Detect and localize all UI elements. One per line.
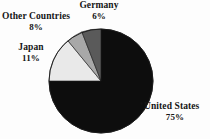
slice-label-germany: Germany 6% xyxy=(62,1,136,21)
slice-label-united-states-name: United States xyxy=(144,102,210,112)
slice-label-japan-percent: 11% xyxy=(3,54,59,63)
slice-label-united-states-percent: 75% xyxy=(144,113,206,122)
pie-chart-figure: Germany 6% Other Countries 8% Japan 11% … xyxy=(0,0,210,139)
slice-label-germany-percent: 6% xyxy=(62,12,136,21)
slice-label-united-states: United States 75% xyxy=(144,102,210,122)
slice-label-japan: Japan 11% xyxy=(3,43,59,63)
slice-label-other-countries-name: Other Countries xyxy=(0,12,73,22)
slice-label-germany-name: Germany xyxy=(62,1,136,11)
slice-label-other-countries-percent: 8% xyxy=(0,23,73,32)
slice-label-japan-name: Japan xyxy=(3,43,59,53)
leader-dot-united-states xyxy=(140,102,143,105)
pie-slices xyxy=(49,29,153,133)
slice-label-other-countries: Other Countries 8% xyxy=(0,12,73,32)
